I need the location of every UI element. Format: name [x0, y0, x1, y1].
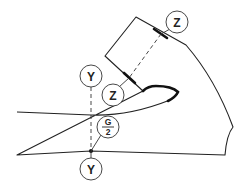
z-top-callout: Z [166, 11, 188, 33]
z-bottom-leader [119, 78, 129, 87]
y-top-label: Y [87, 70, 95, 84]
z-top-label: Z [173, 16, 180, 30]
y-bottom-label: Y [87, 163, 95, 177]
gap-denominator: 2 [106, 127, 111, 137]
y-top-callout: Y [80, 65, 102, 87]
y-bottom-callout: Y [80, 158, 102, 180]
weld-notch [143, 86, 178, 101]
z-bottom-callout: Z [102, 84, 124, 106]
z-section-line [129, 34, 161, 78]
branch-junction-diagram: Z Z Y Y G 2 [0, 0, 245, 194]
gap-leader [91, 135, 101, 151]
gap-numerator: G [105, 117, 112, 127]
gap-half-callout: G 2 [97, 116, 119, 138]
z-bottom-label: Z [109, 89, 116, 103]
main-tube-outline [17, 17, 233, 155]
diagram-canvas: Z Z Y Y G 2 [0, 0, 245, 194]
